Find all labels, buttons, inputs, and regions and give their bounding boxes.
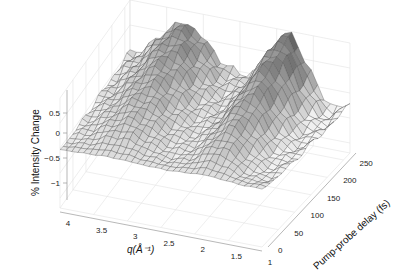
- z-tick-label: −0.5: [44, 154, 60, 163]
- y-tick-label: 50: [294, 229, 303, 238]
- x-tick-label: 4: [66, 219, 71, 228]
- surface-plot: 43.532.521.510501001502002500.50−0.5−1 %…: [0, 0, 408, 278]
- y-tick-label: 100: [311, 211, 325, 220]
- z-axis-label: % Intensity Change: [30, 109, 41, 196]
- x-axis-label-text: q(Å⁻¹): [127, 243, 154, 255]
- z-tick-label: −1: [51, 179, 61, 188]
- z-tick-label: 0.5: [49, 109, 61, 118]
- y-tick-label: 200: [343, 176, 357, 185]
- y-tick-label: 250: [359, 159, 373, 168]
- x-tick-label: 1.5: [231, 252, 243, 261]
- x-tick-label: 2.5: [163, 239, 175, 248]
- y-tick-label: 0: [278, 246, 283, 255]
- x-tick-label: 3.5: [96, 226, 108, 235]
- y-axis-label: Pump-probe delay (fs): [311, 197, 392, 271]
- x-tick-label: 3: [133, 232, 138, 241]
- x-tick-label: 2: [200, 245, 205, 254]
- y-tick-label: 150: [327, 194, 341, 203]
- x-axis-label: q(Å⁻¹): [127, 243, 154, 255]
- x-tick-label: 1: [268, 258, 273, 267]
- x-axis-line: [60, 212, 262, 251]
- surface-mesh: [60, 22, 350, 189]
- z-tick-label: 0: [56, 129, 61, 138]
